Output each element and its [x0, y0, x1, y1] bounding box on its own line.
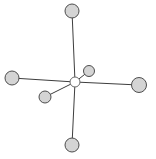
central-atom — [70, 77, 80, 87]
bond-central-atom-to-atom-left — [12, 78, 75, 82]
bond-central-atom-to-atom-top — [72, 11, 75, 82]
atom-front-lower-left — [39, 91, 51, 103]
atom-left — [5, 71, 19, 85]
atom-top — [65, 4, 79, 18]
atom-right — [132, 78, 147, 93]
molecule-diagram-stage — [0, 0, 156, 159]
bond-central-atom-to-atom-bottom — [72, 82, 75, 145]
bond-central-atom-to-atom-right — [75, 82, 139, 85]
atom-back-upper-right — [84, 66, 95, 77]
octahedral-molecule-diagram — [0, 0, 156, 159]
atom-bottom — [65, 138, 79, 152]
